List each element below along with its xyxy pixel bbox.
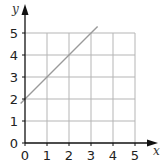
y-axis-label: y — [11, 2, 19, 16]
y-tick-label: 4 — [10, 48, 18, 63]
y-tick-label: 5 — [10, 26, 18, 41]
y-tick-label: 3 — [10, 70, 18, 85]
x-tick-label: 2 — [65, 148, 73, 163]
y-axis-arrow-icon — [22, 4, 29, 15]
y-tick-label: 0 — [10, 136, 18, 151]
y-tick-label: 1 — [10, 114, 18, 129]
x-tick-label: 1 — [43, 148, 51, 163]
line-chart: 012345012345 x y — [0, 0, 164, 166]
x-tick-label: 4 — [109, 148, 117, 163]
data-series — [21, 26, 98, 103]
axes — [22, 4, 159, 147]
x-tick-label: 5 — [131, 148, 139, 163]
x-tick-label: 3 — [87, 148, 95, 163]
series-line — [21, 26, 98, 103]
x-tick-label: 0 — [21, 148, 29, 163]
grid — [25, 33, 135, 143]
y-tick-label: 2 — [10, 92, 18, 107]
x-axis-label: x — [153, 144, 160, 158]
